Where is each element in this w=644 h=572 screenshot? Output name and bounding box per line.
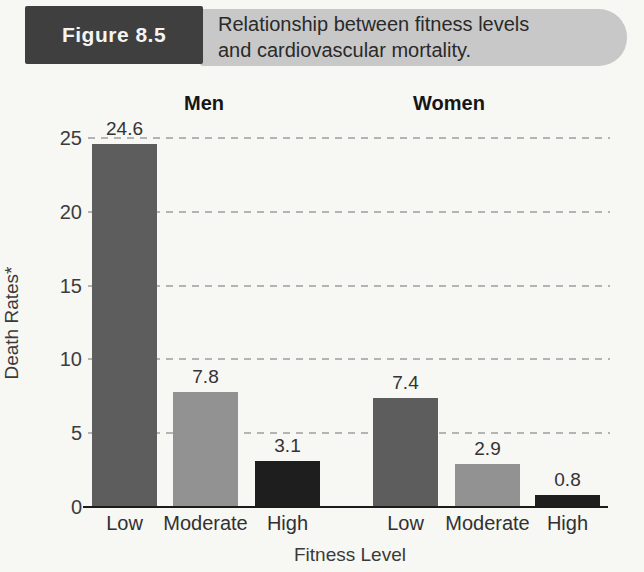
x-axis-title: Fitness Level xyxy=(270,544,430,566)
gridline-10 xyxy=(88,358,610,360)
group-title-men: Men xyxy=(144,92,264,115)
category-label-men-high: High xyxy=(233,512,343,535)
bar-women-high xyxy=(535,495,600,506)
gridline-15 xyxy=(88,285,610,287)
figure-canvas: Relationship between fitness levels and … xyxy=(0,0,644,572)
bar-value-men-high: 3.1 xyxy=(248,436,328,455)
y-tick-label-20: 20 xyxy=(40,202,82,222)
y-tick-label-10: 10 xyxy=(40,349,82,369)
bar-women-low xyxy=(373,398,438,506)
bar-men-low xyxy=(92,144,157,506)
group-title-women: Women xyxy=(389,92,509,115)
y-tick-label-15: 15 xyxy=(40,276,82,296)
y-tick-label-5: 5 xyxy=(40,423,82,443)
gridline-25 xyxy=(88,137,610,139)
bar-value-women-high: 0.8 xyxy=(528,470,608,489)
bar-value-women-moderate: 2.9 xyxy=(448,439,528,458)
y-tick-label-25: 25 xyxy=(40,128,82,148)
bar-chart: Death Rates* Fitness Level 0510152025Men… xyxy=(0,0,644,572)
x-axis-line xyxy=(83,506,608,508)
gridline-5 xyxy=(88,432,610,434)
y-axis-title: Death Rates* xyxy=(1,253,23,393)
bar-value-men-low: 24.6 xyxy=(85,119,165,138)
bar-men-high xyxy=(255,461,320,506)
bar-women-moderate xyxy=(455,464,520,506)
bar-value-men-moderate: 7.8 xyxy=(166,367,246,386)
bar-value-women-low: 7.4 xyxy=(366,373,446,392)
bar-men-moderate xyxy=(173,392,238,506)
gridline-20 xyxy=(88,211,610,213)
category-label-women-high: High xyxy=(513,512,623,535)
